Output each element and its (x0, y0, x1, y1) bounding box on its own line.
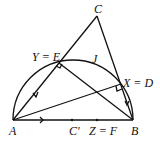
label-cprime: C' (69, 124, 80, 138)
label-d: X = D (122, 76, 153, 90)
right-angle-mark-e (56, 64, 62, 68)
label-a: A (8, 124, 17, 138)
label-b: B (131, 124, 139, 138)
label-c: C (94, 2, 103, 16)
geometry-diagram: C Y = E J X = D A C' Z = F B (0, 0, 160, 145)
point-f (96, 119, 98, 121)
label-f: Z = F (89, 124, 118, 138)
point-cprime (71, 119, 73, 121)
segment-ac (13, 16, 97, 120)
altitude-be (59, 63, 133, 120)
altitude-ad (13, 84, 121, 120)
label-j: J (92, 52, 98, 66)
label-e: Y = E (32, 50, 61, 64)
